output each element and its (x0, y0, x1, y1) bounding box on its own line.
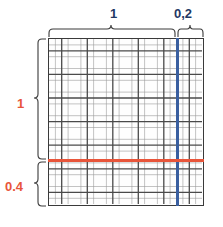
left-label-four-tenths: 0.4 (5, 180, 23, 193)
left-brace-four-tenths (33, 161, 47, 207)
top-brace-two-tenths (177, 24, 204, 38)
grid-major-lines (49, 39, 202, 204)
grid-area (48, 38, 204, 206)
top-label-two-tenths: 0,2 (174, 7, 192, 20)
top-brace-one (48, 24, 176, 38)
horizontal-divider-line (48, 159, 204, 162)
left-brace-one (33, 38, 47, 160)
vertical-divider-line (176, 38, 179, 206)
left-label-one: 1 (17, 97, 24, 110)
top-label-one: 1 (110, 7, 117, 20)
decimal-area-model-figure: 1 0,2 1 0.4 (0, 0, 223, 227)
